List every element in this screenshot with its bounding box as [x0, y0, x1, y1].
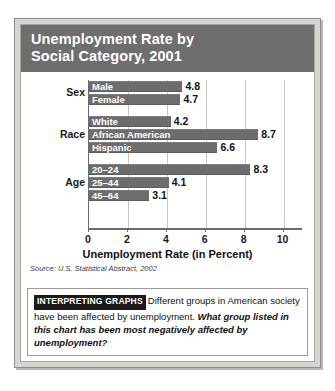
bar-category-label: African American: [92, 129, 170, 140]
bar-category-label: Female: [92, 94, 125, 105]
bar-value-label: 4.2: [171, 116, 189, 127]
x-axis-tick: [205, 228, 206, 232]
group-label-column: SexRaceAge: [21, 80, 85, 228]
bar-row: African American8.7: [89, 129, 302, 140]
x-axis-tick: [127, 228, 128, 232]
x-axis-tick-label: 4: [163, 233, 169, 245]
x-axis-tick: [244, 228, 245, 232]
bar-row: Female4.7: [89, 94, 302, 105]
x-axis-title: Unemployment Rate (in Percent): [21, 248, 314, 260]
bar-value-label: 4.1: [169, 177, 187, 188]
caption-box: INTERPRETING GRAPHSDifferent groups in A…: [27, 288, 308, 356]
bar-value-label: 6.6: [217, 142, 235, 153]
x-axis: 0246810: [88, 228, 302, 230]
x-axis-tick: [166, 228, 167, 232]
bar-row: 45–643.1: [89, 190, 302, 201]
bar-row: Hispanic6.6: [89, 142, 302, 153]
group-label-sex: Sex: [25, 86, 85, 98]
group-label-race: Race: [25, 128, 85, 140]
bar-category-label: 20–24: [92, 164, 118, 175]
x-axis-tick-label: 0: [85, 233, 91, 245]
bar-value-label: 8.3: [250, 164, 268, 175]
bar-row: Male4.8: [89, 81, 302, 92]
figure-title-line-1: Unemployment Rate by: [31, 31, 304, 48]
bar-category-label: Male: [92, 81, 113, 92]
caption-text: INTERPRETING GRAPHSDifferent groups in A…: [34, 294, 301, 349]
bar-category-label: Hispanic: [92, 142, 132, 153]
bar-category-label: 45–64: [92, 190, 118, 201]
bar-row: 20–248.3: [89, 164, 302, 175]
bar-value-label: 4.8: [182, 81, 200, 92]
interpreting-graphs-badge: INTERPRETING GRAPHS: [34, 295, 146, 310]
figure-title-line-2: Social Category, 2001: [31, 48, 304, 65]
plot-area: Male4.8Female4.7White4.2African American…: [88, 80, 302, 228]
x-axis-tick: [88, 228, 89, 232]
x-axis-tick-label: 2: [124, 233, 130, 245]
bar-value-label: 3.1: [149, 190, 167, 201]
bar-category-label: White: [92, 116, 118, 127]
bar-category-label: 25–44: [92, 177, 118, 188]
bar-chart: SexRaceAge Male4.8Female4.7White4.2Afric…: [21, 72, 314, 275]
bar-row: 25–444.1: [89, 177, 302, 188]
x-axis-tick-label: 10: [277, 233, 289, 245]
bar-row: White4.2: [89, 116, 302, 127]
x-axis-tick-label: 8: [241, 233, 247, 245]
source-note: Source: U.S. Statistical Abstract, 2002: [30, 264, 157, 273]
bar-value-label: 4.7: [180, 94, 198, 105]
x-axis-tick: [283, 228, 284, 232]
figure-inner: Unemployment Rate by Social Category, 20…: [20, 24, 315, 362]
figure-title: Unemployment Rate by Social Category, 20…: [21, 25, 314, 72]
figure-frame: Unemployment Rate by Social Category, 20…: [14, 18, 321, 368]
x-axis-tick-label: 6: [202, 233, 208, 245]
bar-value-label: 8.7: [258, 129, 276, 140]
group-label-age: Age: [25, 176, 85, 188]
